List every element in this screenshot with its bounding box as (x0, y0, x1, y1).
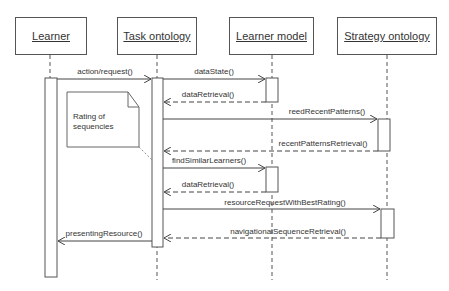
activation-learner (45, 78, 57, 277)
object-label-task-ontology: Task ontology (123, 30, 190, 42)
activation-strategy-2 (381, 209, 394, 238)
activation-task (152, 78, 163, 247)
note-line-1: Rating of (73, 112, 113, 122)
activation-strategy-1 (378, 119, 390, 151)
msg-label-recentpatternsretrieval: recentPatternsRetrieval() (279, 139, 368, 148)
msg-label-presentingresource: presentingResource() (66, 229, 143, 238)
msg-label-resourcerequest: resourceRequestWithBestRating() (224, 198, 345, 207)
msg-label-action-request: action/request() (77, 67, 133, 76)
msg-label-dataretrieval-2: dataRetrieval() (182, 180, 234, 189)
object-strategy-ontology: Strategy ontology (337, 17, 437, 55)
msg-label-navigationalsequence: navigationalSequenceRetrieval() (230, 227, 346, 236)
object-label-strategy-ontology: Strategy ontology (344, 30, 430, 42)
object-label-learner: Learner (32, 30, 70, 42)
activation-learner-model-1 (266, 78, 278, 102)
msg-label-findsimilarlearners: findSimilarLearners() (172, 156, 246, 165)
object-learner: Learner (15, 17, 87, 55)
note-text: Rating of sequencies (73, 112, 113, 132)
msg-label-datastate: dataState() (194, 67, 234, 76)
object-label-learner-model: Learner model (236, 30, 307, 42)
activation-learner-model-2 (266, 167, 278, 192)
note-line-2: sequencies (73, 122, 113, 132)
msg-label-reedrecentpatterns: reedRecentPatterns() (289, 107, 365, 116)
msg-label-dataretrieval-1: dataRetrieval() (182, 90, 234, 99)
object-task-ontology: Task ontology (117, 17, 197, 55)
object-learner-model: Learner model (229, 17, 314, 55)
